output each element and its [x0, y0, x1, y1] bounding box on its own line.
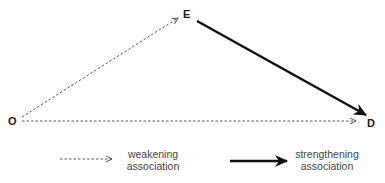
legend-weakening-label: weakening association — [118, 148, 188, 172]
legend-strengthening-label: strengthening association — [287, 148, 367, 172]
node-d: D — [367, 117, 375, 129]
edge-o-e — [22, 18, 178, 117]
edge-e-d — [197, 21, 366, 115]
legend-strengthening-line1: strengthening — [287, 148, 367, 160]
node-o: O — [8, 115, 17, 127]
node-e: E — [183, 8, 190, 20]
legend-weakening-line2: association — [118, 160, 188, 172]
legend-weakening-line1: weakening — [118, 148, 188, 160]
legend-strengthening-line2: association — [287, 160, 367, 172]
